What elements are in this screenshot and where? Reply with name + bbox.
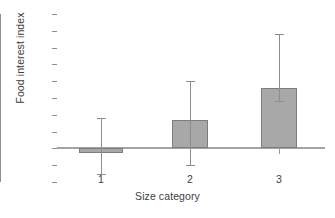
x-axis-title: Size category <box>0 190 335 202</box>
y-tick-mark <box>52 31 57 32</box>
y-tick-mark <box>52 132 57 133</box>
error-bar-stem <box>279 34 280 101</box>
error-bar-cap-lower <box>97 174 106 175</box>
y-tick-mark <box>52 115 57 116</box>
error-bar-cap-upper <box>275 34 284 35</box>
y-axis-line <box>0 14 1 182</box>
error-bar-cap-lower <box>275 101 284 102</box>
x-tick-label: 3 <box>264 174 294 185</box>
chart-figure: Food interest index 43.532.521.510.50-0.… <box>0 0 335 218</box>
error-bar-cap-upper <box>186 81 195 82</box>
error-bar-cap-upper <box>97 118 106 119</box>
error-bar-stem <box>190 81 191 164</box>
error-bar-stem <box>101 118 102 173</box>
error-bar-cap-lower <box>186 165 195 166</box>
y-tick-mark <box>52 48 57 49</box>
x-tick-label: 1 <box>86 174 116 185</box>
clipped-caption <box>0 212 335 218</box>
y-axis-title: Food interest index <box>14 0 26 128</box>
y-tick-mark <box>52 165 57 166</box>
y-tick-mark <box>52 98 57 99</box>
y-tick-mark <box>52 148 57 149</box>
y-tick-mark <box>52 14 57 15</box>
y-tick-mark <box>52 64 57 65</box>
x-tick-label: 2 <box>175 174 205 185</box>
y-tick-mark <box>52 182 57 183</box>
y-tick-mark <box>52 81 57 82</box>
x-tick-mark <box>279 149 280 154</box>
